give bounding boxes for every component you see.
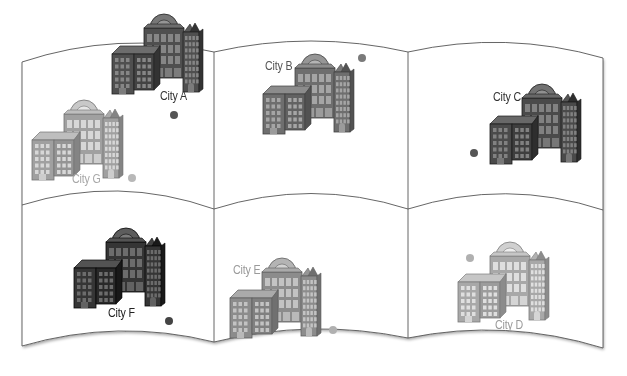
city-label-d: City D [495,317,523,332]
building-icon-g [30,96,126,182]
city-label-e: City E [233,262,260,277]
location-dot-a [170,111,178,119]
location-dot-b [358,54,366,62]
city-map-diagram: City A City B City C City D City E City … [0,0,627,376]
city-label-f: City F [108,305,135,320]
location-dot-d [466,254,474,262]
building-icon-d [456,238,552,324]
location-dot-c [470,149,478,157]
location-dot-g [128,174,136,182]
city-label-a: City A [160,88,187,103]
location-dot-e [329,326,337,334]
building-icon-f [72,224,168,310]
location-dot-f [165,317,173,325]
building-icon-a [110,10,206,96]
city-label-g: City G [72,171,101,186]
city-label-c: City C [493,89,521,104]
city-label-b: City B [265,58,292,73]
